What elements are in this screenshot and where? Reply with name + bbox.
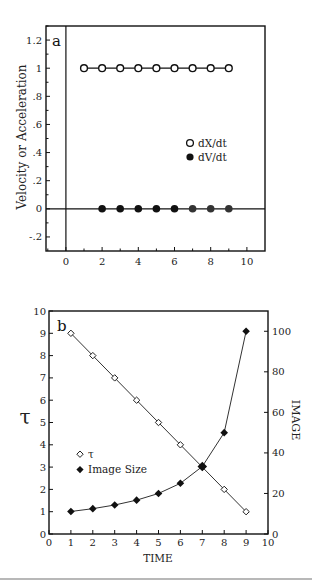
y-tick-label: 6 [40,395,46,406]
filled-circle-marker-icon [171,205,179,213]
chart-b-x-axis: 012345678910 [46,530,275,548]
filled-diamond-marker-icon [76,466,83,473]
open-circle-marker-icon [153,65,160,72]
legend-label: Image Size [88,463,147,475]
y-tick-label: 0 [36,203,42,214]
x-tick-label: 10 [241,256,254,267]
filled-circle-marker-icon [225,205,233,213]
x-tick-label: 2 [99,256,105,267]
filled-circle-marker-icon [98,205,106,213]
right-y-tick-label: 0 [272,529,278,540]
chart-a-reference-lines [46,26,265,251]
bottom-divider [0,578,312,580]
y-tick-label: .4 [32,147,42,158]
open-circle-marker-icon [187,140,194,147]
legend-item-tau: τ [77,448,94,460]
chart-a-x-axis: 0246810 [48,247,253,267]
chart-b-right-y-axis-title: IMAGE [289,400,302,440]
legend-label: τ [88,448,94,460]
filled-diamond-marker-icon [133,496,141,504]
x-tick-label: 6 [171,256,177,267]
y-tick-label: -.2 [29,231,42,242]
chart-a-y-axis-title: Velocity or Acceleration [15,64,29,210]
open-circle-marker-icon [207,65,214,72]
open-circle-marker-icon [189,65,196,72]
y-tick-label: 2 [40,484,46,495]
right-y-tick-label: 100 [272,326,291,337]
x-tick-label: 1 [68,537,74,548]
open-diamond-marker-icon [77,451,83,457]
right-y-tick-label: 80 [272,366,285,377]
chart-b-legend: τ Image Size [76,448,147,475]
y-tick-label: 8 [40,350,46,361]
filled-diamond-marker-icon [155,490,163,498]
open-circle-marker-icon [135,65,142,72]
y-tick-label: 7 [40,372,46,383]
x-tick-label: 7 [199,537,205,548]
x-tick-label: 3 [112,537,118,548]
legend-label: dV/dt [198,151,228,163]
legend-item-dxdt: dX/dt [187,137,228,149]
filled-diamond-marker-icon [67,508,75,516]
y-tick-label: .8 [32,91,42,102]
right-y-tick-label: 20 [272,488,285,499]
chart-a-panel-label: a [52,32,61,50]
x-tick-label: 5 [155,537,161,548]
y-tick-label: 3 [40,462,46,473]
x-tick-label: 4 [133,537,139,548]
chart-a: 0246810 -.20.2.4.6.811.2 a Velocity or A… [15,26,265,267]
filled-circle-marker-icon [186,153,193,160]
chart-a-frame [46,26,265,251]
y-tick-label: 1 [40,506,46,517]
chart-b-series [67,327,250,515]
open-circle-marker-icon [99,65,106,72]
x-tick-label: 8 [208,256,214,267]
y-tick-label: 0 [40,529,46,540]
filled-circle-marker-icon [189,205,197,213]
chart-b-panel-label: b [57,317,67,335]
open-circle-marker-icon [225,65,232,72]
x-tick-label: 6 [177,537,183,548]
x-tick-label: 0 [46,537,52,548]
x-tick-label: 4 [135,256,141,267]
filled-diamond-marker-icon [89,505,97,513]
filled-circle-marker-icon [153,205,161,213]
filled-circle-marker-icon [135,205,143,213]
x-tick-label: 9 [243,537,249,548]
legend-item-dvdt: dV/dt [186,151,227,163]
y-tick-label: 10 [33,306,46,317]
chart-b: 012345678910 012345678910 020406080100 b… [19,306,302,565]
chart-b-left-y-axis: 012345678910 [33,306,53,540]
y-tick-label: 5 [40,417,46,428]
chart-b-y-axis-title: τ [19,405,30,429]
x-tick-label: 2 [90,537,96,548]
filled-circle-marker-icon [116,205,124,213]
figure: 0246810 -.20.2.4.6.811.2 a Velocity or A… [0,0,312,582]
filled-diamond-marker-icon [242,327,250,335]
right-y-tick-label: 40 [272,447,285,458]
y-tick-label: 4 [40,439,46,450]
y-tick-label: 9 [40,328,46,339]
chart-b-x-axis-title: TIME [143,552,173,564]
open-circle-marker-icon [81,65,88,72]
filled-diamond-marker-icon [111,501,119,509]
y-tick-label: 1.2 [26,35,42,46]
open-circle-marker-icon [117,65,124,72]
right-y-tick-label: 60 [272,407,285,418]
filled-circle-marker-icon [207,205,215,213]
chart-a-legend: dX/dt dV/dt [186,137,227,163]
x-tick-label: 8 [221,537,227,548]
open-circle-marker-icon [171,65,178,72]
legend-item-image-size: Image Size [76,463,147,475]
y-tick-label: .6 [32,119,42,130]
y-tick-label: 1 [36,63,42,74]
x-tick-label: 0 [63,256,69,267]
y-tick-label: .2 [32,175,42,186]
legend-label: dX/dt [198,137,227,149]
filled-diamond-marker-icon [220,429,228,437]
